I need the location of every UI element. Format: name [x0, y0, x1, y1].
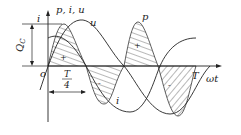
p-lobe-positive-1	[48, 24, 86, 66]
capacitor-power-diagram: i p, i, u o ωt u p i QC T 4 T + + - -	[0, 0, 241, 135]
qc-arrow-up-icon	[30, 24, 34, 29]
curve-label-i: i	[116, 95, 119, 106]
p-lobe-negative-2	[158, 66, 196, 116]
curve-label-u: u	[90, 17, 96, 28]
horizontal-axis-arrow-icon	[216, 64, 222, 68]
quarter-arrow-right-icon	[81, 90, 86, 94]
origin-label: o	[40, 68, 46, 79]
sign-plus-1: +	[60, 53, 67, 62]
quarter-period-denominator: 4	[63, 80, 70, 90]
curve-label-p: p	[142, 11, 149, 22]
qc-arrow-down-icon	[30, 61, 34, 66]
sign-plus-2: +	[134, 41, 141, 50]
sign-minus-2: -	[168, 81, 171, 90]
axis-label-i: i	[37, 13, 40, 24]
sign-minus-1: -	[98, 79, 101, 88]
period-label: T	[192, 70, 200, 81]
p-lobe-positive-2	[124, 22, 158, 66]
quarter-arrow-left-icon	[49, 90, 54, 94]
axis-label-top: p, i, u	[56, 4, 85, 15]
charge-label: QC	[14, 38, 27, 52]
axis-label-omega-t: ωt	[206, 73, 219, 84]
vertical-axis-arrow-icon	[46, 10, 50, 16]
quarter-period-numerator: T	[64, 69, 71, 79]
